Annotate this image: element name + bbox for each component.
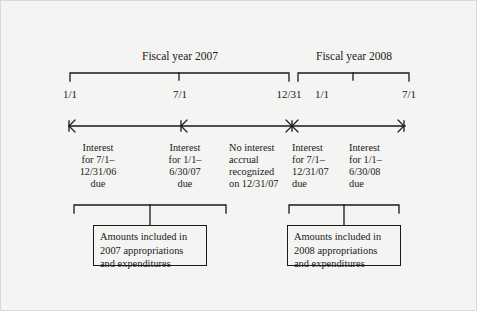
date-tick-label-5: 7/1 [385,88,433,101]
fiscal-year-title-2008: Fiscal year 2008 [284,50,424,64]
interval-note-2: Interest for 1/1– 6/30/07 due [152,142,218,191]
summary-box-2008: Amounts included in 2008 appropriations … [287,225,401,266]
interval-note-3: No interest accrual recognized on 12/31/… [229,142,295,191]
interval-note-5: Interest for 1/1– 6/30/08 due [349,142,415,191]
date-tick-label-1: 1/1 [46,88,94,101]
date-tick-label-2: 7/1 [156,88,204,101]
date-tick-label-4: 1/1 [298,88,346,101]
figure-page: Fiscal year 2007 Fiscal year 2008 1/1 7/… [0,0,477,311]
interval-note-1: Interest for 7/1– 12/31/06 due [65,142,131,191]
diagram-stage: Fiscal year 2007 Fiscal year 2008 1/1 7/… [1,1,477,311]
summary-box-2007: Amounts included in 2007 appropriations … [93,225,207,266]
fiscal-year-title-2007: Fiscal year 2007 [110,50,250,64]
